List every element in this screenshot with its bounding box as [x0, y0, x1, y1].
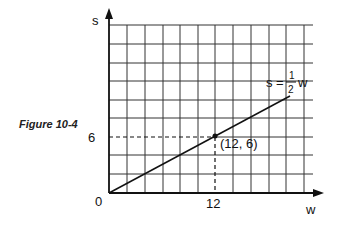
- series-line: [109, 96, 290, 193]
- y-axis-arrow: [105, 8, 113, 19]
- chart: 0 12 6 w s (12, 6) s = 1 2 w: [0, 0, 337, 229]
- y-tick-6: 6: [88, 130, 95, 145]
- equation-denominator: 2: [288, 84, 294, 95]
- point-label: (12, 6): [220, 136, 258, 151]
- y-axis-label: s: [92, 13, 99, 28]
- equation-lhs: s =: [266, 75, 284, 90]
- x-axis-label: w: [305, 202, 316, 217]
- equation-numerator: 1: [289, 70, 295, 81]
- data-point: [213, 134, 218, 139]
- x-axis-arrow: [313, 189, 324, 197]
- grid: [109, 25, 313, 193]
- x-tick-12: 12: [206, 196, 220, 211]
- origin-label: 0: [95, 194, 102, 209]
- equation-var: w: [297, 75, 308, 90]
